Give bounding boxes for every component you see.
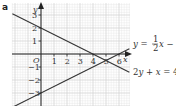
x-tick-label: 6 [117,57,122,66]
origin-label: O [33,56,40,65]
x-tick-label: 4 [91,57,96,66]
y-tick-label: 2 [32,24,37,33]
x-tick-label: 2 [65,57,70,66]
legend-line-2: y = 1 2 x − 3 [132,34,176,53]
y-axis-label: y [32,5,38,14]
x-tick-label: 5 [104,57,109,66]
legend-line-1: 2y + x = 4 [133,67,176,77]
legend-eq2-den: 2 [153,43,158,53]
graph-figure: 123456−3−2−1123 a y x O y = 1 2 x − 3 2y… [0,0,176,106]
legend-eq2-suffix: x − 3 [159,39,176,49]
y-tick-label: 1 [32,37,37,46]
x-tick-label: 3 [78,57,83,66]
x-tick-label: 1 [52,57,57,66]
legend-eq2-prefix: y = [132,39,148,49]
y-tick-label: −2 [28,76,40,85]
part-label: a [2,2,8,12]
x-axis-label: x [123,55,128,64]
y-tick-label: −3 [28,89,40,98]
